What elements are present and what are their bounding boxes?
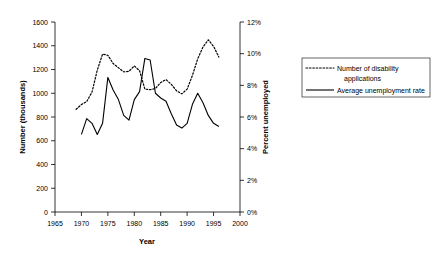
y2-tick-label: 0% (247, 209, 257, 216)
y2-tick-label: 4% (247, 145, 257, 152)
legend-label-disability-line2: applications (344, 75, 381, 83)
right-axis-ticks: 0% 2% 4% 6% 8% 10% 12% (240, 19, 261, 216)
x-tick-label: 1965 (47, 220, 63, 227)
x-axis-ticks: 1965 1970 1975 1980 1985 1990 1995 2000 (47, 212, 248, 227)
legend: Number of disability applications Averag… (302, 58, 430, 97)
y-axis-title: Number (thousands) (18, 80, 27, 154)
y2-tick-label: 10% (247, 50, 261, 57)
y2-tick-label: 6% (247, 114, 257, 121)
x-tick-label: 1980 (127, 220, 143, 227)
y-tick-label: 800 (36, 114, 48, 121)
y2-tick-label: 12% (247, 19, 261, 26)
y-tick-label: 200 (36, 185, 48, 192)
y2-axis-title: Percent unemployed (261, 80, 270, 154)
y-tick-label: 0 (44, 209, 48, 216)
y-tick-label: 600 (36, 137, 48, 144)
line-chart-svg: 0 200 400 600 800 1000 1200 1400 1600 0%… (0, 0, 436, 262)
y-tick-label: 1400 (32, 42, 48, 49)
series-line-unemployment-rate (81, 58, 218, 134)
y2-tick-label: 8% (247, 82, 257, 89)
y-tick-label: 1200 (32, 66, 48, 73)
legend-label-disability-line1: Number of disability (337, 65, 399, 73)
series-line-disability-applications (76, 40, 219, 109)
y2-tick-label: 2% (247, 177, 257, 184)
x-tick-label: 2000 (232, 220, 248, 227)
x-tick-label: 1995 (206, 220, 222, 227)
y-tick-label: 400 (36, 161, 48, 168)
y-tick-label: 1000 (32, 90, 48, 97)
legend-label-unemployment: Average unemployment rate (337, 87, 425, 95)
left-axis-ticks: 0 200 400 600 800 1000 1200 1400 1600 (32, 19, 55, 216)
x-tick-label: 1990 (179, 220, 195, 227)
x-tick-label: 1970 (74, 220, 90, 227)
chart-figure: 0 200 400 600 800 1000 1200 1400 1600 0%… (0, 0, 436, 262)
y-tick-label: 1600 (32, 19, 48, 26)
x-tick-label: 1975 (100, 220, 116, 227)
x-tick-label: 1985 (153, 220, 169, 227)
x-axis-title: Year (139, 237, 155, 246)
